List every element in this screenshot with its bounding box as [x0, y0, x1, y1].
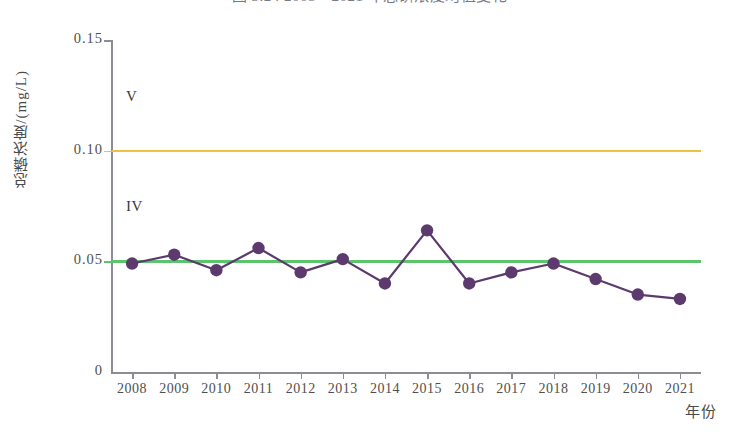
x-tick-mark — [301, 372, 303, 379]
x-axis-title: 年份 — [685, 400, 717, 421]
x-tick-mark — [596, 372, 598, 379]
y-tick-label: 0.10 — [43, 141, 103, 158]
x-tick-mark — [216, 372, 218, 379]
threshold-tick-iv — [104, 261, 112, 263]
x-tick-mark — [259, 372, 261, 379]
x-tick-mark — [554, 372, 556, 379]
threshold-label-iv: IV — [126, 198, 143, 215]
y-axis-line — [111, 40, 113, 373]
data-point-marker — [674, 293, 686, 305]
series-line — [132, 230, 680, 299]
x-tick-mark — [469, 372, 471, 379]
data-point-marker — [168, 248, 180, 260]
chart-figure: 图 3.24 2008—2021 年总磷浓度均值变化 总磷浓度/(mg/L) 0… — [0, 0, 739, 434]
data-point-marker — [547, 257, 559, 269]
x-tick-mark — [680, 372, 682, 379]
data-point-marker — [379, 277, 391, 289]
y-axis-title: 总磷浓度/(mg/L) — [12, 70, 36, 188]
data-point-marker — [589, 273, 601, 285]
x-tick-mark — [511, 372, 513, 379]
data-point-marker — [337, 253, 349, 265]
data-point-marker — [505, 266, 517, 278]
x-tick-mark — [174, 372, 176, 379]
data-point-marker — [294, 266, 306, 278]
threshold-label-v: V — [126, 88, 137, 105]
threshold-line-iv — [112, 260, 701, 262]
x-tick-mark — [132, 372, 134, 379]
x-tick-label: 2021 — [654, 381, 706, 397]
data-point-marker — [210, 264, 222, 276]
threshold-line-v — [112, 150, 701, 152]
threshold-tick-v — [104, 151, 112, 153]
x-tick-mark — [427, 372, 429, 379]
data-point-marker — [632, 288, 644, 300]
data-point-marker — [463, 277, 475, 289]
chart-title: 图 3.24 2008—2021 年总磷浓度均值变化 — [0, 0, 739, 6]
y-tick-label: 0 — [43, 362, 103, 379]
x-axis-line — [111, 372, 701, 374]
x-tick-mark — [343, 372, 345, 379]
y-tick-label: 0.05 — [43, 251, 103, 268]
x-tick-mark — [385, 372, 387, 379]
data-point-marker — [421, 224, 433, 236]
data-point-marker — [126, 257, 138, 269]
y-tick-mark — [104, 40, 112, 42]
x-tick-mark — [638, 372, 640, 379]
data-point-marker — [252, 242, 264, 254]
y-tick-label: 0.15 — [43, 30, 103, 47]
